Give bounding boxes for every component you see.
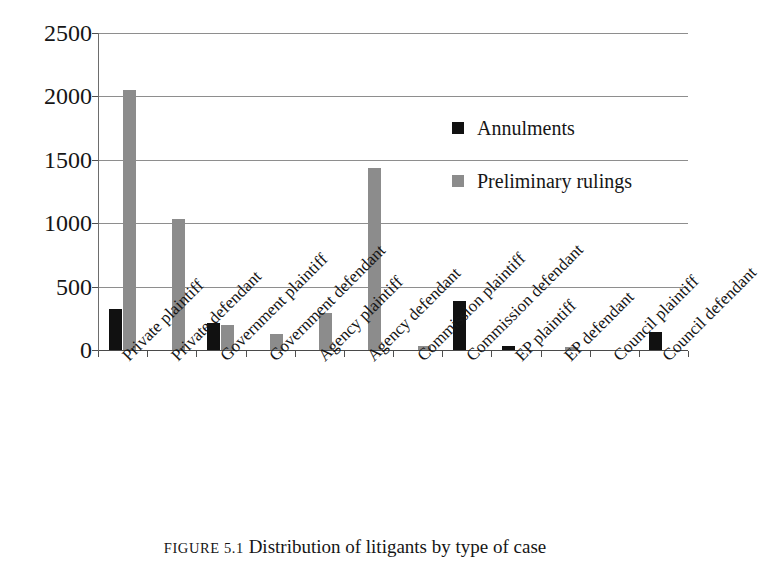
y-axis-tick-labels: 05001000150020002500 bbox=[0, 33, 92, 351]
figure-caption: FIGURE 5.1 Distribution of litigants by … bbox=[0, 534, 710, 561]
y-axis-tick-label: 500 bbox=[0, 275, 92, 299]
bar bbox=[172, 219, 185, 350]
y-axis-tick-label: 2000 bbox=[0, 84, 92, 108]
legend-item-label: Preliminary rulings bbox=[477, 171, 632, 191]
bar bbox=[109, 309, 122, 350]
legend-item-annulments: Annulments bbox=[452, 113, 682, 143]
x-axis-category-labels: Private plaintiffPrivate defendantGovern… bbox=[0, 352, 710, 517]
bar bbox=[123, 90, 136, 350]
legend-item-label: Annulments bbox=[477, 118, 575, 138]
bar-group bbox=[98, 33, 147, 350]
chart-legend: Annulments Preliminary rulings bbox=[452, 113, 682, 219]
figure-caption-text: Distribution of litigants by type of cas… bbox=[249, 536, 547, 557]
y-axis-tick-label: 1000 bbox=[0, 211, 92, 235]
square-marker-icon bbox=[452, 122, 464, 134]
square-marker-icon bbox=[452, 175, 464, 187]
y-axis-tick-label: 1500 bbox=[0, 148, 92, 172]
legend-item-preliminary-rulings: Preliminary rulings bbox=[452, 166, 682, 196]
figure-number: FIGURE 5.1 bbox=[164, 540, 244, 556]
y-axis-tick-label: 2500 bbox=[0, 21, 92, 45]
